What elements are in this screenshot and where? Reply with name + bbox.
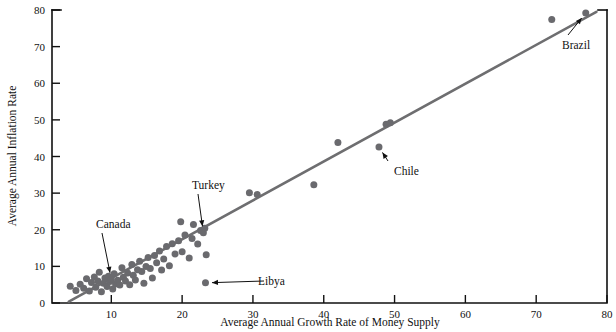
annotation-leader-line: [212, 281, 264, 283]
data-point: [67, 283, 74, 290]
x-axis-title: Average Annual Growth Rate of Money Supp…: [220, 316, 440, 329]
data-point: [86, 287, 93, 294]
data-points: [67, 9, 590, 295]
data-point: [149, 275, 156, 282]
data-point: [202, 279, 209, 286]
data-point: [126, 281, 133, 288]
data-point: [153, 259, 160, 266]
y-tick-label: 30: [34, 187, 46, 199]
y-tick-label: 0: [40, 297, 46, 309]
chart-svg: 010203040506070801020304050607080 Canada…: [0, 0, 616, 332]
annotation-label-libya: Libya: [258, 275, 285, 288]
data-point: [156, 247, 163, 254]
data-point: [203, 251, 210, 258]
data-point: [177, 218, 184, 225]
annotation-leader-line: [102, 233, 110, 273]
data-point: [181, 231, 188, 238]
data-point: [136, 258, 143, 265]
data-point: [246, 189, 253, 196]
data-point: [158, 267, 165, 274]
data-point: [179, 248, 186, 255]
data-point: [96, 269, 103, 276]
annotation-arrow-head: [212, 280, 218, 285]
data-point: [169, 240, 176, 247]
point-annotations: CanadaTurkeyLibyaChileBrazil: [96, 18, 590, 288]
annotation-label-brazil: Brazil: [562, 39, 590, 51]
data-point: [375, 143, 382, 150]
scatter-chart-figure: 010203040506070801020304050607080 Canada…: [0, 0, 616, 332]
axis-ticks: [52, 10, 607, 303]
plot-frame: [52, 10, 607, 303]
data-point: [190, 221, 197, 228]
y-tick-label: 40: [34, 151, 46, 163]
data-point: [166, 262, 173, 269]
y-axis-title: Average Annual Inflation Rate: [6, 86, 19, 227]
x-tick-label: 60: [460, 308, 472, 320]
data-point: [172, 250, 179, 257]
data-point: [72, 287, 79, 294]
data-point: [186, 254, 193, 261]
x-tick-label: 70: [531, 308, 543, 320]
data-point: [310, 181, 317, 188]
data-point: [116, 282, 123, 289]
data-point: [111, 270, 118, 277]
data-point: [92, 284, 99, 291]
x-tick-label: 20: [177, 308, 189, 320]
x-tick-label: 10: [106, 308, 118, 320]
data-point: [160, 256, 167, 263]
data-point: [194, 241, 201, 248]
data-point: [140, 280, 147, 287]
data-point: [387, 119, 394, 126]
data-point: [128, 261, 135, 268]
annotation-label-canada: Canada: [96, 218, 130, 230]
data-point: [132, 276, 139, 283]
annotation-arrow-head: [382, 152, 387, 158]
y-tick-label: 10: [34, 260, 46, 272]
y-tick-label: 20: [34, 224, 46, 236]
data-point: [175, 237, 182, 244]
data-point: [582, 9, 589, 16]
annotation-label-chile: Chile: [394, 165, 419, 177]
data-point: [98, 288, 105, 295]
annotation-label-turkey: Turkey: [192, 179, 225, 192]
data-point: [118, 264, 125, 271]
data-point: [254, 191, 261, 198]
data-point: [145, 254, 152, 261]
axes: [52, 10, 607, 303]
data-point: [334, 139, 341, 146]
x-tick-label: 80: [602, 308, 614, 320]
data-point: [147, 265, 154, 272]
y-tick-label: 80: [34, 4, 46, 16]
data-point: [189, 235, 196, 242]
y-tick-label: 70: [34, 41, 46, 53]
data-point: [548, 16, 555, 23]
y-tick-label: 60: [34, 77, 46, 89]
annotation-arrow-head: [106, 266, 111, 272]
y-tick-label: 50: [34, 114, 46, 126]
